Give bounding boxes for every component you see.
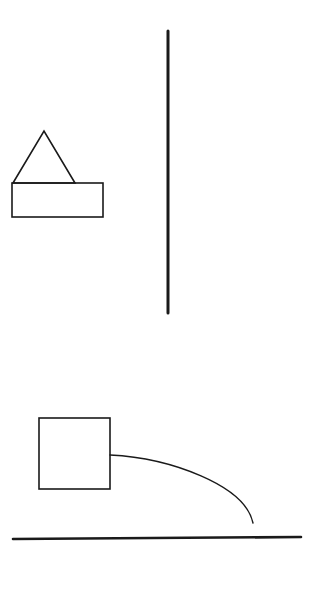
diagram-canvas [0, 0, 332, 598]
